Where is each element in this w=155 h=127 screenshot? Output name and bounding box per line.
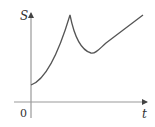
s-curve <box>31 15 143 85</box>
graph-canvas: S t 0 <box>0 0 155 127</box>
x-axis-label: t <box>142 107 147 121</box>
origin-label: 0 <box>20 107 27 120</box>
y-axis-label: S <box>20 9 28 23</box>
